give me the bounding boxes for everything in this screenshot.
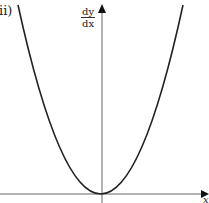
y-axis-arrow-icon bbox=[98, 4, 106, 13]
part-label: ii) bbox=[0, 3, 12, 18]
y-axis-label: dy dx bbox=[81, 6, 95, 29]
graph-canvas bbox=[0, 0, 209, 203]
x-axis-label: x bbox=[203, 194, 209, 203]
parabola-curve bbox=[18, 5, 183, 194]
y-axis-label-numerator: dy bbox=[81, 6, 95, 18]
y-axis-label-denominator: dx bbox=[81, 18, 95, 29]
